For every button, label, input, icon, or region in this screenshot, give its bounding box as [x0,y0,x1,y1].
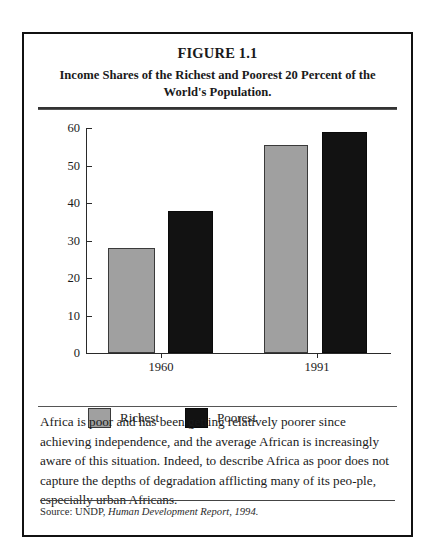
y-tick-label-20: 20 [68,271,81,286]
bar-1991-poorest [322,132,367,353]
figure-number: FIGURE 1.1 [44,43,391,63]
x-axis [86,353,391,354]
source-title: Human Development Report, 1994. [108,506,258,517]
y-tick-label-50: 50 [68,159,81,174]
y-tick-label-60: 60 [68,121,81,136]
y-tick-label-0: 0 [74,346,80,361]
y-tick-label-30: 30 [68,234,81,249]
body-text-divider [38,406,397,407]
x-axis-label-1991: 1991 [282,360,352,375]
y-tick-label-40: 40 [68,196,81,211]
source-divider [40,500,395,501]
x-axis-label-1960: 1960 [126,360,196,375]
bar-1960-richest [108,248,155,353]
bar-chart: 60 50 40 30 20 10 0 1960 1991 [34,110,401,372]
figure-title-block: FIGURE 1.1 Income Shares of the Richest … [24,34,411,100]
y-tick-0: 0 [86,353,92,354]
x-tick-1960 [161,353,162,358]
figure-caption: Income Shares of the Richest and Poorest… [44,67,391,100]
source-line: Source: UNDP, Human Development Report, … [40,506,395,517]
x-tick-1991 [317,353,318,358]
y-tick-label-10: 10 [68,309,81,324]
bar-1960-poorest [168,211,213,354]
plot-area [86,128,386,353]
figure-body-text: Africa is poor and has been getting rela… [40,412,395,510]
bar-1991-richest [264,145,308,353]
source-prefix: Source: UNDP, [40,506,105,517]
figure-box: FIGURE 1.1 Income Shares of the Richest … [22,32,413,537]
